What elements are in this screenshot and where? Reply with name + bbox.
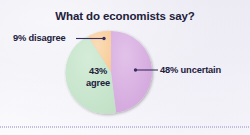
pie-label-agree: 43% agree <box>76 66 120 89</box>
bottom-dotted-rule <box>0 126 250 128</box>
pie-label-agree-value: 43% <box>76 66 120 78</box>
pie-label-agree-name: agree <box>76 78 120 90</box>
pie-label-uncertain: 48% uncertain <box>160 65 221 75</box>
pie-label-disagree: 9% disagree <box>13 33 66 43</box>
pie-chart-figure: What do economists say? <box>0 0 250 135</box>
